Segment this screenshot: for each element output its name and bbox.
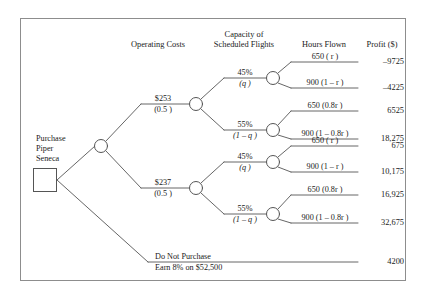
no-purchase-label-line1: Do Not Purchase: [155, 252, 211, 262]
branch-label-cap-55-a-prob: (1 – q ): [221, 131, 269, 141]
column-header-profit: Profit ($): [358, 40, 406, 50]
outcome-profit-out-2: –4225: [356, 83, 404, 93]
outcome-hours-out-6: 900 (1 – r ): [292, 162, 358, 172]
column-header-capacity-line1: Capacity of: [196, 30, 292, 40]
branch-label-cap-45-a-prob: (q ): [223, 79, 267, 89]
outcome-profit-out-1: –9725: [356, 57, 404, 67]
root-label-line1: Purchase: [36, 134, 66, 144]
branch-label-cap-55-b-pct: 55%: [223, 204, 267, 214]
root-label-line2: Piper: [36, 144, 53, 154]
no-purchase-label-line2: Earn 8% on $52,500: [155, 263, 222, 273]
outcome-hours-out-5: 650 ( r ): [292, 136, 358, 146]
branch-label-cap-55-a-pct: 55%: [223, 120, 267, 130]
outcome-profit-out-3: 6525: [356, 106, 404, 116]
branch-label-oc-237-prob: (0.5 ): [139, 189, 187, 199]
outcome-hours-out-1: 650 ( r ): [292, 52, 358, 62]
branch-label-oc-237-cost: $237: [139, 178, 187, 188]
outcome-hours-out-7: 650 (0.8r ): [292, 185, 358, 195]
branch-label-cap-45-a-pct: 45%: [223, 68, 267, 78]
branch-label-cap-45-b-prob: (q ): [223, 163, 267, 173]
outcome-profit-out-8: 32,675: [356, 218, 404, 228]
column-header-hours-flown: Hours Flown: [290, 40, 358, 50]
column-header-capacity-line2: Scheduled Flights: [196, 40, 292, 50]
outcome-hours-out-2: 900 (1 – r ): [292, 78, 358, 88]
branch-label-cap-45-b-pct: 45%: [223, 152, 267, 162]
decision-tree-figure: Operating Costs Capacity of Scheduled Fl…: [0, 0, 424, 300]
branch-label-oc-253-cost: $253: [139, 94, 187, 104]
column-header-operating-costs: Operating Costs: [122, 40, 194, 50]
outcome-hours-out-8: 900 (1 – 0.8r ): [290, 213, 360, 223]
outcome-hours-out-3: 650 (0.8r ): [292, 101, 358, 111]
outcome-profit-out-7: 16,925: [356, 190, 404, 200]
outcome-profit-out-6: 10,175: [356, 167, 404, 177]
branch-label-cap-55-b-prob: (1 – q ): [221, 215, 269, 225]
branch-label-oc-253-prob: (0.5 ): [139, 105, 187, 115]
root-label-line3: Seneca: [36, 154, 59, 164]
no-purchase-profit: 4200: [356, 257, 404, 267]
outcome-profit-out-5: 675: [356, 141, 404, 151]
